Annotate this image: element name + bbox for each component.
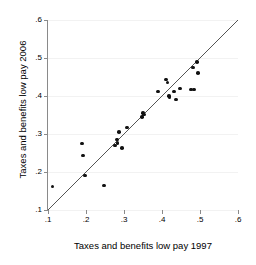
x-tick-label: .4: [152, 214, 172, 225]
scatter-point: [178, 87, 182, 91]
x-tick-label: .3: [114, 214, 134, 225]
x-tick-label: .5: [190, 214, 210, 225]
x-tick-label: .1: [38, 214, 58, 225]
scatter-plot-figure: Taxes and benefits low pay 2006 Taxes an…: [0, 0, 256, 265]
y-tick-label: .6: [22, 15, 42, 25]
y-axis-title: Taxes and benefits low pay 2006: [16, 2, 30, 217]
scatter-point: [195, 60, 199, 64]
scatter-point: [172, 90, 176, 94]
scatter-point: [120, 146, 124, 150]
plot-area: .1.2.3.4.5.6 .1.2.3.4.5.6: [48, 20, 238, 210]
scatter-point: [142, 113, 146, 117]
y-tick-label: .5: [22, 53, 42, 63]
scatter-point: [196, 71, 200, 75]
x-axis-title: Taxes and benefits low pay 1997: [48, 240, 238, 251]
y-tick-label: .2: [22, 167, 42, 177]
x-tick-label: .6: [228, 214, 248, 225]
gridline-y: [48, 210, 238, 211]
scatter-point: [174, 98, 178, 102]
scatter-point: [116, 141, 120, 145]
y-tick-label: .4: [22, 91, 42, 101]
scatter-point: [117, 130, 121, 134]
scatter-point: [192, 88, 196, 92]
x-tick-label: .2: [76, 214, 96, 225]
scatter-point: [191, 66, 195, 70]
y-tick-label: .3: [22, 129, 42, 139]
